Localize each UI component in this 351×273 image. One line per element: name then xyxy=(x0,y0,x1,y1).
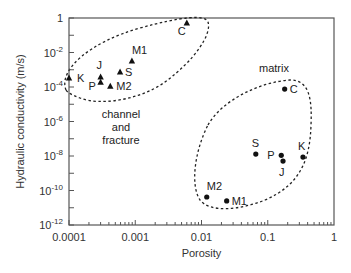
point-label: C xyxy=(178,25,186,37)
x-tick-label: 0.0001 xyxy=(52,231,86,243)
circle-marker xyxy=(282,86,287,91)
circle-marker xyxy=(280,158,285,163)
y-tick-label: 10-8 xyxy=(44,148,64,162)
y-tick-label: 10-2 xyxy=(44,45,64,59)
point-label: J xyxy=(97,59,103,71)
scatter-chart: 0.00010.0010.010.11110-210-410-610-810-1… xyxy=(0,0,351,273)
y-tick-label: 10-12 xyxy=(39,217,63,231)
group-label: channel xyxy=(102,108,141,120)
point-label: K xyxy=(298,140,306,152)
x-tick-label: 0.1 xyxy=(260,231,275,243)
point-label: P xyxy=(89,80,96,92)
point-label: S xyxy=(252,137,259,149)
y-tick-label: 10-6 xyxy=(44,114,64,128)
group-label: fracture xyxy=(102,134,139,146)
triangle-marker xyxy=(97,79,103,85)
x-tick-label: 0.001 xyxy=(121,231,149,243)
triangle-marker xyxy=(117,69,123,75)
group-label: matrix xyxy=(259,62,289,74)
y-tick-label: 10-10 xyxy=(39,183,63,197)
circle-marker xyxy=(279,153,284,158)
point-label: M2 xyxy=(207,180,222,192)
point-label: J xyxy=(279,166,285,178)
circle-marker xyxy=(300,154,305,159)
plot-frame xyxy=(69,18,334,225)
point-label: C xyxy=(290,83,298,95)
channel-fracture-enclosure xyxy=(65,17,209,101)
point-label: K xyxy=(77,72,85,84)
triangle-marker xyxy=(107,83,113,89)
point-label: M2 xyxy=(116,80,131,92)
axis-tick-labels: 0.00010.0010.010.11110-210-410-610-810-1… xyxy=(39,12,337,243)
x-tick-label: 1 xyxy=(331,231,337,243)
y-tick-label: 10-4 xyxy=(44,79,64,93)
group-label: and xyxy=(112,121,130,133)
circle-marker xyxy=(224,198,229,203)
circle-marker xyxy=(204,194,209,199)
matrix-series: CSPJKM2M1 xyxy=(204,83,306,207)
point-label: M1 xyxy=(232,195,247,207)
y-tick-label: 1 xyxy=(57,12,63,24)
point-label: S xyxy=(125,66,132,78)
axis-ticks xyxy=(69,18,331,225)
point-label: M1 xyxy=(132,44,147,56)
point-label: P xyxy=(267,149,274,161)
triangle-marker xyxy=(97,73,103,79)
circle-marker xyxy=(253,151,258,156)
y-axis-title: Hydraulic conductivity (m/s) xyxy=(14,54,26,188)
x-axis-title: Porosity xyxy=(182,247,222,259)
triangle-marker xyxy=(129,58,135,64)
channel-fracture-series: KJPM2SM1C xyxy=(66,20,190,93)
x-tick-label: 0.01 xyxy=(191,231,212,243)
